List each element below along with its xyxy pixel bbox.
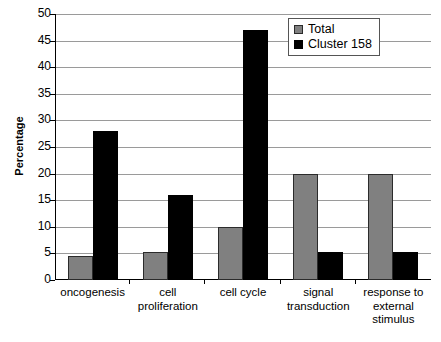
y-tick-mark (50, 280, 55, 281)
legend-item-label: Cluster 158 (308, 37, 372, 52)
bar (218, 227, 243, 280)
y-tick-label: 40 (23, 60, 51, 72)
x-axis-label: cell proliferation (130, 286, 205, 327)
y-tick-label: 50 (23, 7, 51, 19)
gray-swatch (294, 25, 303, 34)
bar (243, 30, 268, 280)
bar (293, 174, 318, 280)
legend-item: Total (294, 22, 372, 37)
y-tick-label: 5 (23, 246, 51, 258)
bar-group (130, 14, 205, 280)
y-tick-label: 25 (23, 140, 51, 152)
y-tick-label: 30 (23, 113, 51, 125)
y-tick-label: 0 (23, 273, 51, 285)
x-tick-mark (129, 280, 130, 284)
bar-chart: Percentage 05101520253035404550 TotalClu… (0, 0, 441, 342)
y-tick-label: 20 (23, 167, 51, 179)
y-tick-label: 35 (23, 87, 51, 99)
x-tick-mark (204, 280, 205, 284)
x-axis-label: oncogenesis (55, 286, 130, 327)
x-axis-label: cell cycle (205, 286, 280, 327)
legend-item: Cluster 158 (294, 37, 372, 52)
legend-item-label: Total (308, 22, 334, 37)
x-axis-label: response to external stimulus (356, 286, 431, 327)
black-swatch (294, 40, 303, 49)
bar (168, 195, 193, 280)
bar (143, 252, 168, 280)
x-tick-mark (280, 280, 281, 284)
bar-group (205, 14, 280, 280)
bar (368, 174, 393, 280)
y-tick-label: 15 (23, 193, 51, 205)
bar (93, 131, 118, 280)
x-axis-labels: oncogenesiscell proliferationcell cycles… (55, 286, 431, 327)
y-tick-label: 45 (23, 34, 51, 46)
y-tick-label: 10 (23, 220, 51, 232)
bar (318, 252, 343, 280)
bar-group (55, 14, 130, 280)
x-axis-label: signal transduction (281, 286, 356, 327)
x-tick-mark (355, 280, 356, 284)
chart-legend: TotalCluster 158 (288, 18, 380, 56)
bar (68, 256, 93, 280)
bar (393, 252, 418, 280)
